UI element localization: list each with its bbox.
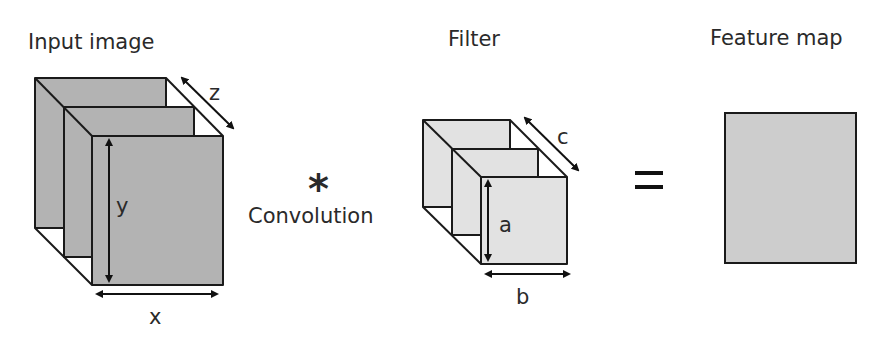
filter-height-label: a [499, 213, 512, 237]
filter-width-label: b [516, 285, 529, 309]
filter-front-panel [481, 177, 567, 264]
input-width-label: x [149, 305, 161, 329]
input-image-stack [35, 78, 223, 285]
input-front-panel [92, 136, 223, 285]
equals-sign [635, 171, 663, 189]
input-height-label: y [116, 194, 128, 218]
feature-map [725, 113, 856, 263]
convolution-diagram: y x z * a b c [0, 0, 894, 340]
filter-stack [423, 120, 567, 264]
input-depth-label: z [209, 81, 220, 105]
convolution-symbol: * [308, 166, 329, 212]
filter-depth-label: c [557, 125, 569, 149]
